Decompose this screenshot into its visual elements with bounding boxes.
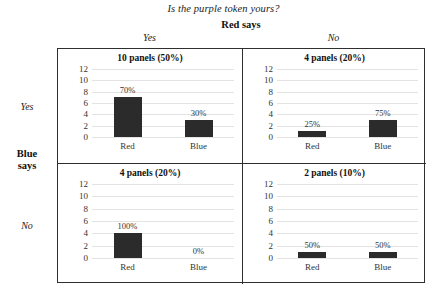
panel-grid: 10 panels (50%) 02468101270%Red30%Blue 4… (57, 48, 425, 283)
gridline (277, 246, 418, 247)
y-axis-tick-label: 6 (269, 98, 274, 108)
column-header-yes: Yes (57, 32, 242, 43)
bar-value-label: 50% (375, 240, 391, 250)
x-axis-tick-label: Blue (190, 141, 207, 151)
bar (298, 131, 326, 137)
panel-title: 4 panels (20%) (58, 168, 242, 178)
y-axis-tick-label: 4 (84, 109, 89, 119)
x-axis-tick-label: Red (120, 262, 135, 272)
plot-area: 02468101270%Red30%Blue (92, 69, 234, 137)
y-axis-tick-label: 2 (84, 121, 89, 131)
plot-area: 024681012100%Red0%Blue (92, 184, 234, 258)
gridline (277, 233, 418, 234)
gridline (92, 69, 234, 70)
gridline (92, 221, 234, 222)
y-axis-tick-label: 8 (269, 204, 274, 214)
y-axis-tick-label: 8 (84, 87, 89, 97)
y-axis-tick-label: 2 (84, 241, 89, 251)
row-group-label: Blue says (2, 148, 52, 171)
y-axis-tick-label: 6 (84, 98, 89, 108)
column-header-no: No (242, 32, 425, 43)
gridline (277, 69, 418, 70)
y-axis-tick-label: 0 (269, 132, 274, 142)
y-axis-tick-label: 12 (264, 179, 273, 189)
gridline (92, 80, 234, 81)
y-axis-tick-label: 10 (264, 191, 273, 201)
row-header-no: No (2, 220, 52, 231)
y-axis-tick-label: 4 (84, 228, 89, 238)
y-axis-tick-label: 12 (79, 64, 88, 74)
gridline (92, 137, 234, 138)
y-axis-tick-label: 2 (269, 241, 274, 251)
row-header-yes: Yes (2, 101, 52, 112)
y-axis-tick-label: 10 (79, 191, 88, 201)
gridline (277, 137, 418, 138)
panel-title: 10 panels (50%) (58, 53, 242, 63)
gridline (277, 258, 418, 259)
column-group-label: Red says (57, 19, 425, 30)
panel-title: 2 panels (10%) (243, 168, 426, 178)
bar-value-label: 50% (304, 240, 320, 250)
gridline (277, 80, 418, 81)
gridline (277, 126, 418, 127)
panel-no-yes: 4 panels (20%) 024681012100%Red0%Blue (58, 164, 242, 284)
gridline (277, 92, 418, 93)
y-axis-tick-label: 4 (269, 228, 274, 238)
x-axis-tick-label: Red (120, 141, 135, 151)
y-axis-tick-label: 10 (79, 75, 88, 85)
x-axis-tick-label: Blue (190, 262, 207, 272)
bar-value-label: 25% (304, 119, 320, 129)
row-group-label-line2: says (2, 160, 52, 172)
y-axis-tick-label: 8 (84, 204, 89, 214)
bar-value-label: 30% (191, 108, 207, 118)
y-axis-tick-label: 6 (269, 216, 274, 226)
bar (369, 120, 397, 137)
figure-title: Is the purple token yours? (0, 3, 447, 14)
gridline (92, 184, 234, 185)
gridline (277, 184, 418, 185)
gridline (277, 103, 418, 104)
gridline (277, 221, 418, 222)
panel-yes-yes: 10 panels (50%) 02468101270%Red30%Blue (58, 49, 242, 163)
y-axis-tick-label: 0 (84, 253, 89, 263)
plot-area: 02468101225%Red75%Blue (277, 69, 418, 137)
x-axis-tick-label: Red (305, 141, 320, 151)
y-axis-tick-label: 12 (264, 64, 273, 74)
y-axis-tick-label: 10 (264, 75, 273, 85)
y-axis-tick-label: 2 (269, 121, 274, 131)
bar-value-label: 75% (375, 108, 391, 118)
x-axis-tick-label: Blue (374, 262, 391, 272)
y-axis-tick-label: 0 (84, 132, 89, 142)
row-group-label-line1: Blue (2, 148, 52, 160)
bar (114, 233, 142, 258)
plot-area: 02468101250%Red50%Blue (277, 184, 418, 258)
panel-no-no: 2 panels (10%) 02468101250%Red50%Blue (243, 164, 426, 284)
x-axis-tick-label: Red (305, 262, 320, 272)
panel-yes-no: 4 panels (20%) 02468101225%Red75%Blue (243, 49, 426, 163)
gridline (92, 196, 234, 197)
y-axis-tick-label: 6 (84, 216, 89, 226)
bar-value-label: 70% (120, 85, 136, 95)
gridline (277, 196, 418, 197)
y-axis-tick-label: 12 (79, 179, 88, 189)
bar (369, 252, 397, 258)
bar (298, 252, 326, 258)
y-axis-tick-label: 4 (269, 109, 274, 119)
bar (114, 97, 142, 137)
gridline (92, 258, 234, 259)
panel-title: 4 panels (20%) (243, 53, 426, 63)
gridline (92, 92, 234, 93)
bar-value-label: 0% (193, 246, 204, 256)
y-axis-tick-label: 0 (269, 253, 274, 263)
gridline (277, 209, 418, 210)
y-axis-tick-label: 8 (269, 87, 274, 97)
gridline (92, 209, 234, 210)
bar-value-label: 100% (118, 221, 138, 231)
x-axis-tick-label: Blue (374, 141, 391, 151)
bar (185, 120, 213, 137)
gridline (277, 114, 418, 115)
